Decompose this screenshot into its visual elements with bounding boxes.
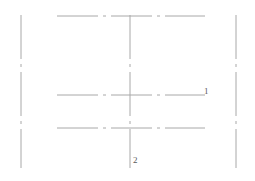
label-2: 2: [133, 156, 138, 165]
line-drawing: [0, 0, 255, 181]
drawing-canvas: 1 2: [0, 0, 255, 181]
label-1: 1: [204, 87, 209, 96]
horizontal-centerlines: [57, 16, 205, 128]
